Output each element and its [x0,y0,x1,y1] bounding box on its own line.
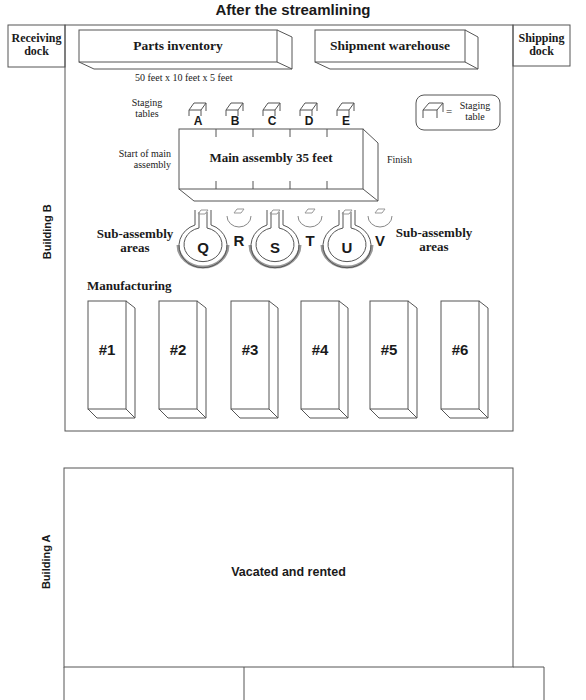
legend-equals: = [446,106,452,118]
legend-staging-table-icon [423,103,443,118]
legend-line2: table [455,112,495,123]
machine-4: #4 [301,342,339,358]
finish-label: Finish [387,155,412,166]
machine-box [301,301,348,418]
sub-assembly-right-line1: Sub-assembly [394,226,474,240]
start-line1: Start of main [115,149,171,160]
sub-assembly-v: V [370,233,390,249]
sub-assembly-small-area [227,209,251,227]
machine-1: #1 [88,342,126,358]
sub-assembly-small-area [368,209,392,227]
machine-box [370,301,417,418]
machine-box [88,301,135,418]
sub-assembly-small-area [298,209,322,227]
sub-assembly-areas-group [178,209,392,268]
machine-box [441,301,488,418]
machine-6: #6 [441,342,479,358]
manufacturing-machines-group [88,301,488,418]
sub-assembly-right-line2: areas [394,240,474,254]
machine-5: #5 [370,342,408,358]
legend-label: Staging table [455,101,495,122]
receiving-dock-line1: Receiving [8,32,65,45]
sub-assembly-r: R [229,233,249,249]
sub-assembly-q: Q [193,240,213,256]
staging-letter-b: B [227,115,243,128]
machine-2: #2 [159,342,197,358]
machine-3: #3 [231,342,269,358]
sub-assembly-u: U [337,240,357,256]
receiving-dock-line2: dock [8,45,65,58]
sub-assembly-t: T [300,233,320,249]
legend-line1: Staging [455,101,495,112]
floor-plan-diagram: After the streamlining Receiving dock Sh… [0,0,586,700]
shipping-dock-line1: Shipping [513,32,570,45]
staging-tables-line1: Staging [122,98,172,109]
main-assembly-label: Main assembly 35 feet [179,151,363,165]
start-line2: assembly [115,160,171,171]
diagram-title: After the streamlining [0,2,586,18]
parts-inventory-dimensions: 50 feet x 10 feet x 5 feet [135,73,232,84]
vacated-and-rented-label: Vacated and rented [64,566,513,579]
machine-box [231,301,278,418]
sub-assembly-s: S [265,240,285,256]
sub-assembly-left-line2: areas [95,241,175,255]
shipment-warehouse-label: Shipment warehouse [315,39,465,53]
main-assembly-box [179,129,378,201]
staging-tables-line2: tables [122,109,172,120]
sub-assembly-left-line1: Sub-assembly [95,227,175,241]
shipping-dock-label: Shipping dock [513,32,570,57]
start-of-main-assembly-label: Start of main assembly [115,149,171,170]
machine-box [159,301,206,418]
staging-letter-a: A [190,115,206,128]
staging-letter-d: D [301,115,317,128]
parts-inventory-label: Parts inventory [79,39,277,53]
shipping-dock-line2: dock [513,45,570,58]
sub-assembly-left-label: Sub-assembly areas [95,227,175,254]
building-b-label: Building B [42,192,54,272]
receiving-dock-label: Receiving dock [8,32,65,57]
staging-letter-c: C [264,115,280,128]
staging-tables-label: Staging tables [122,98,172,119]
sub-assembly-right-label: Sub-assembly areas [394,226,474,253]
manufacturing-label: Manufacturing [87,279,172,293]
staging-letter-e: E [338,115,354,128]
building-a-label: Building A [41,522,53,602]
